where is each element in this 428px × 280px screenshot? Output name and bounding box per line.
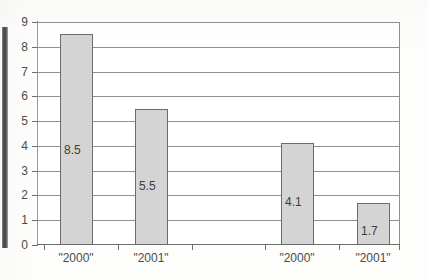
x-axis-category-label: "2000" xyxy=(46,252,106,264)
y-axis-label: 6 xyxy=(12,90,28,102)
bar xyxy=(60,34,93,245)
y-axis-label: 2 xyxy=(12,189,28,201)
chart-screenshot: 8.55.54.11.7 0123456789 "2000""2001""200… xyxy=(0,0,428,280)
bar xyxy=(135,109,168,245)
y-axis-label: 3 xyxy=(12,165,28,177)
scan-edge-artifact xyxy=(2,27,8,248)
x-axis-tick xyxy=(118,245,119,250)
y-axis-label: 9 xyxy=(12,16,28,28)
x-axis-category-label: "2000" xyxy=(267,252,327,264)
bar xyxy=(281,143,314,245)
bar-value-label: 5.5 xyxy=(139,180,156,192)
y-axis-label: 7 xyxy=(12,66,28,78)
y-axis-tick xyxy=(32,72,37,73)
x-axis-tick xyxy=(265,245,266,250)
y-axis-tick xyxy=(32,96,37,97)
bar-value-label: 8.5 xyxy=(64,144,81,156)
y-axis-label: 0 xyxy=(12,239,28,251)
y-axis-label: 1 xyxy=(12,214,28,226)
y-axis-tick xyxy=(32,195,37,196)
bar-value-label: 1.7 xyxy=(361,225,378,237)
x-axis-tick xyxy=(192,245,193,250)
x-axis-category-label: "2001" xyxy=(343,252,403,264)
gridline xyxy=(37,22,400,23)
x-axis-tick xyxy=(44,245,45,250)
y-axis-tick xyxy=(32,245,37,246)
plot-area: 8.55.54.11.7 xyxy=(37,22,400,245)
x-axis-tick xyxy=(399,245,400,250)
y-axis-tick xyxy=(32,220,37,221)
y-axis-tick xyxy=(32,171,37,172)
x-axis-tick xyxy=(339,245,340,250)
y-axis-tick xyxy=(32,146,37,147)
y-axis-tick xyxy=(32,22,37,23)
y-axis-tick xyxy=(32,121,37,122)
x-axis-category-label: "2001" xyxy=(121,252,181,264)
y-axis-label: 8 xyxy=(12,41,28,53)
y-axis-label: 5 xyxy=(12,115,28,127)
y-axis-label: 4 xyxy=(12,140,28,152)
y-axis-tick xyxy=(32,47,37,48)
bar-value-label: 4.1 xyxy=(285,196,302,208)
